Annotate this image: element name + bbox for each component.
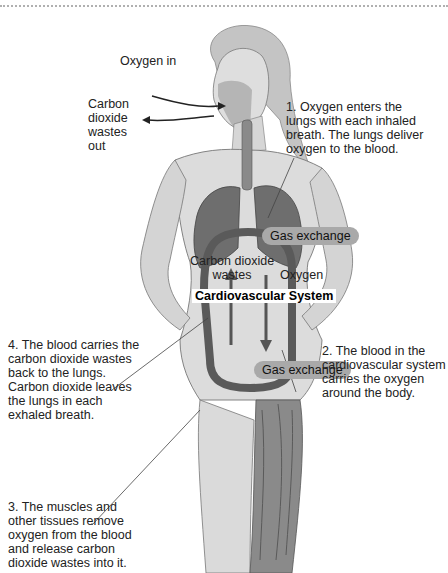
co2-out-label: Carbon dioxide wastes out bbox=[88, 97, 129, 153]
step-4-text: 4. The blood carries the carbon dioxide … bbox=[8, 338, 139, 422]
oxygen-label: Oxygen bbox=[280, 268, 323, 282]
step-1-text: 1. Oxygen enters the lungs with each inh… bbox=[286, 100, 423, 156]
gas-exchange-lungs-pill: Gas exchange bbox=[262, 227, 359, 245]
body-illustration bbox=[0, 0, 448, 573]
step-3-text: 3. The muscles and other tissues remove … bbox=[8, 500, 132, 570]
oxygen-in-label: Oxygen in bbox=[120, 54, 176, 68]
co2-wastes-label: Carbon dioxide wastes bbox=[190, 254, 274, 282]
step-2-text: 2. The blood in the cardiovascular syste… bbox=[322, 344, 446, 400]
cardiovascular-system-title: Cardiovascular System bbox=[192, 289, 336, 303]
